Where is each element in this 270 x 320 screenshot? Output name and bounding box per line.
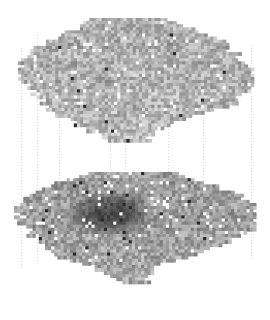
lower-layer-canvas <box>0 0 270 320</box>
raster-layer-lower <box>0 0 270 320</box>
figure-container <box>0 0 270 320</box>
